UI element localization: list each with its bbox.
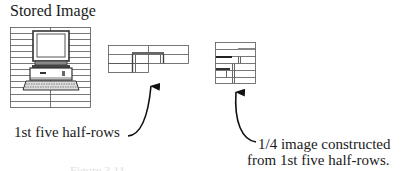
quarter-image-panel [216,43,256,84]
half-rows-panel [109,46,189,73]
half-rows-arrow [128,86,151,136]
diagram-canvas [0,0,405,171]
quarter-image-arrow [236,92,256,142]
